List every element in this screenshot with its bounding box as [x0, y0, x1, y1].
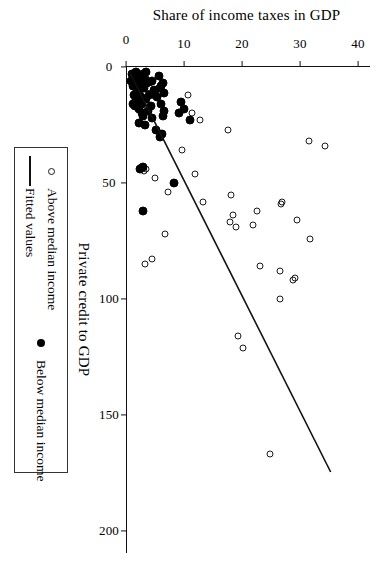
line-swatch-icon: [29, 154, 30, 188]
legend-item-fitted-values: Fitted values: [22, 154, 38, 326]
data-point: [164, 189, 171, 196]
legend-label: Above median income: [44, 188, 60, 310]
data-point: [128, 100, 137, 109]
y-axis-tick-label: 40: [352, 36, 365, 52]
data-point: [276, 268, 283, 275]
y-axis-tick: [358, 61, 359, 67]
x-axis-tick-label: 200: [99, 523, 119, 539]
data-point: [254, 207, 261, 214]
data-point: [278, 198, 285, 205]
legend-column-1: Above median income Fitted values: [22, 154, 60, 326]
filled-circle-icon: [37, 326, 45, 360]
data-point: [294, 217, 301, 224]
data-point: [138, 162, 147, 171]
data-point: [276, 295, 283, 302]
y-axis-tick: [242, 61, 243, 67]
data-point: [257, 263, 264, 270]
x-axis-tick-label: 0: [106, 59, 113, 75]
data-point: [191, 170, 198, 177]
x-axis-tick: [121, 414, 127, 415]
data-point: [306, 138, 313, 145]
data-point: [178, 147, 185, 154]
legend-label: Below median income: [33, 360, 49, 481]
x-axis-tick: [121, 182, 127, 183]
y-axis-tick-label: 0: [123, 32, 130, 48]
data-point: [141, 261, 148, 268]
data-point: [139, 206, 148, 215]
data-point: [234, 333, 241, 340]
data-point: [151, 90, 160, 99]
data-point: [156, 81, 165, 90]
x-axis-tick-label: 150: [99, 407, 119, 423]
data-point: [169, 178, 178, 187]
y-axis-tick-label: 20: [236, 36, 249, 52]
data-point: [152, 175, 159, 182]
legend-item-above-median-income: Above median income: [44, 154, 60, 326]
data-point: [307, 235, 314, 242]
data-point: [199, 198, 206, 205]
legend: Above median income Fitted values Below …: [14, 147, 68, 473]
y-axis-title: Share of income taxes in GDP: [125, 7, 369, 24]
y-axis-tick: [300, 61, 301, 67]
data-point: [292, 275, 299, 282]
legend-column-2: Below median income: [33, 326, 49, 481]
data-point: [227, 219, 234, 226]
data-point: [230, 212, 237, 219]
data-point: [228, 191, 235, 198]
x-axis-tick: [121, 530, 127, 531]
x-axis-tick-label: 50: [102, 175, 115, 191]
data-point: [154, 72, 163, 81]
data-point: [186, 116, 195, 125]
open-circle-icon: [49, 154, 56, 188]
x-axis-tick-label: 100: [99, 291, 119, 307]
data-point: [161, 230, 168, 237]
data-point: [224, 126, 231, 133]
data-point: [127, 76, 136, 85]
y-axis-tick: [184, 61, 185, 67]
data-point: [321, 142, 328, 149]
data-point: [184, 91, 191, 98]
data-point: [141, 67, 150, 76]
data-point: [267, 451, 274, 458]
plot-area: 050100150200 010203040: [126, 66, 370, 553]
legend-label: Fitted values: [22, 188, 38, 257]
data-point: [240, 344, 247, 351]
data-point: [131, 67, 140, 76]
data-point: [196, 117, 203, 124]
scatter-figure: 050100150200 010203040 Private credit to…: [0, 0, 384, 586]
y-axis-tick-label: 30: [294, 36, 307, 52]
data-point: [232, 224, 239, 231]
legend-item-below-median-income: Below median income: [33, 326, 49, 481]
x-axis-tick: [121, 298, 127, 299]
y-axis-tick-label: 10: [177, 36, 190, 52]
y-axis-tick: [125, 61, 126, 67]
data-point: [177, 97, 186, 106]
data-point: [249, 221, 256, 228]
x-axis-title: Private credit to GDP: [75, 66, 92, 553]
data-point: [151, 125, 160, 134]
data-point: [158, 111, 167, 120]
data-point: [148, 256, 155, 263]
data-canvas: [127, 67, 370, 553]
